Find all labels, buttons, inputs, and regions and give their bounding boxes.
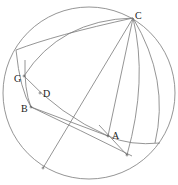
label-D: D xyxy=(43,88,50,99)
label-C: C xyxy=(135,10,142,21)
label-G: G xyxy=(14,73,21,84)
sphere-outline xyxy=(3,7,175,179)
label-A: A xyxy=(112,130,120,141)
line-C-A xyxy=(108,18,133,136)
line-B-A xyxy=(31,107,108,136)
sphere-diagram: C G D B A xyxy=(0,0,178,185)
line-C-bottom xyxy=(43,18,133,168)
hidden3 xyxy=(40,18,133,93)
diagram-canvas: C G D B A xyxy=(0,0,178,185)
arc-C-outer-left xyxy=(16,18,133,50)
hidden4 xyxy=(24,18,133,76)
label-B: B xyxy=(21,103,28,114)
